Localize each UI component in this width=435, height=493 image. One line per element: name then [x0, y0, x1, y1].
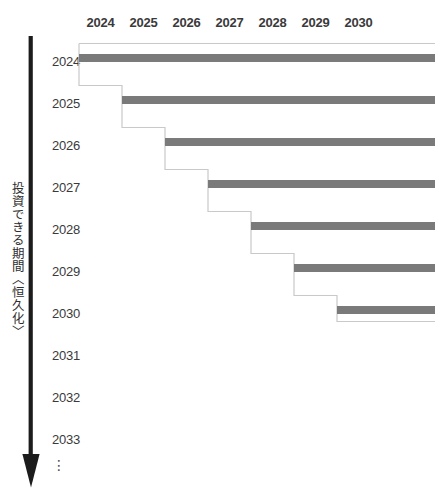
bar-row-2024 — [79, 54, 435, 62]
bar-row-2030 — [337, 306, 435, 314]
bar-row-2025 — [122, 96, 435, 104]
plot-area — [0, 0, 435, 493]
investment-period-chart: 投資できる期間〈恒久化〉 2024 2025 2026 2027 2028 20… — [0, 0, 435, 493]
bar-row-2026 — [165, 138, 435, 146]
bar-group — [79, 54, 435, 314]
bar-row-2027 — [208, 180, 435, 188]
bar-row-2029 — [294, 264, 435, 272]
bar-row-2028 — [251, 222, 435, 230]
